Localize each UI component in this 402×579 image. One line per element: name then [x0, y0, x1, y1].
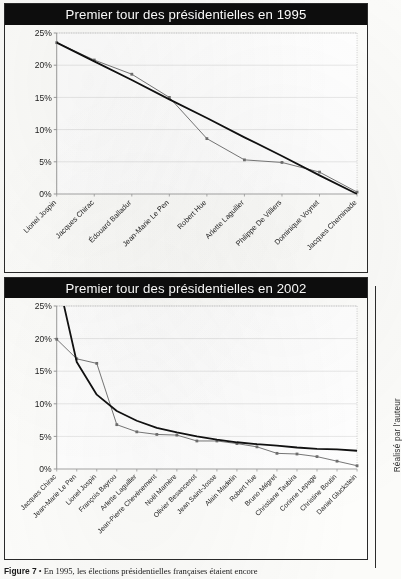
chart-title-1995: Premier tour des présidentielles en 1995	[5, 4, 367, 25]
svg-text:Robert Hue: Robert Hue	[175, 198, 208, 231]
svg-text:10%: 10%	[35, 125, 52, 135]
chart-canvas-1995: 0%5%10%15%20%25%Lionel JospinJacques Chi…	[5, 25, 367, 272]
svg-text:20%: 20%	[35, 60, 52, 70]
figure-caption: Figure 7 • En 1995, les élections présid…	[4, 566, 364, 579]
figure-caption-separator: •	[39, 567, 42, 576]
svg-text:25%: 25%	[35, 28, 52, 38]
svg-text:10%: 10%	[35, 399, 52, 409]
chart-plot-2002: 0%5%10%15%20%25%Jacques ChiracJean-Marie…	[5, 298, 367, 559]
svg-text:0%: 0%	[39, 189, 52, 199]
svg-text:Lionel Jospin: Lionel Jospin	[21, 198, 58, 235]
svg-text:15%: 15%	[35, 366, 52, 376]
chart-panel-2002: Premier tour des présidentielles en 2002…	[4, 277, 368, 560]
svg-text:5%: 5%	[39, 432, 52, 442]
chart-plot-1995: 0%5%10%15%20%25%Lionel JospinJacques Chi…	[5, 25, 367, 272]
chart-panel-1995: Premier tour des présidentielles en 1995…	[4, 3, 368, 273]
chart-canvas-2002: 0%5%10%15%20%25%Jacques ChiracJean-Marie…	[5, 298, 367, 559]
svg-text:20%: 20%	[35, 334, 52, 344]
svg-text:25%: 25%	[35, 301, 52, 311]
svg-text:Jacques Chirac: Jacques Chirac	[54, 198, 96, 241]
right-margin-rule	[375, 286, 376, 568]
figure-caption-label: Figure 7	[4, 566, 37, 576]
svg-text:0%: 0%	[39, 464, 52, 474]
svg-text:Daniel Gluckstein: Daniel Gluckstein	[315, 473, 358, 516]
svg-text:15%: 15%	[35, 93, 52, 103]
figure-caption-text: En 1995, les élections présidentielles f…	[44, 566, 258, 576]
chart-title-2002: Premier tour des présidentielles en 2002	[5, 278, 367, 298]
author-credit: Réalisé par l'auteur	[393, 398, 402, 472]
svg-text:5%: 5%	[39, 157, 52, 167]
